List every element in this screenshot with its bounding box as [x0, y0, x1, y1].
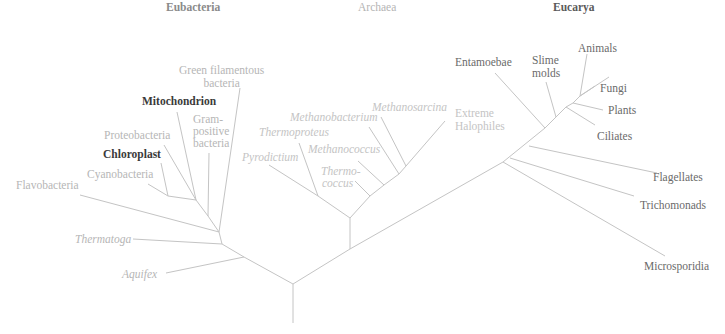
branch-eucarya-trunk4 [566, 103, 573, 107]
branch-slime-molds [546, 82, 556, 117]
branch-plants [573, 103, 603, 110]
branch-green-filamentous [219, 88, 240, 232]
domain-label-eucarya: Eucarya [553, 1, 595, 14]
branch-cyano-chloro-node [168, 196, 196, 200]
taxon-gram-positive-bacteria: Gram- positive bacteria [193, 113, 229, 149]
branch-eucarya-trunk5 [573, 96, 580, 103]
branch-bacteria-inner [219, 232, 222, 244]
domain-label-eubacteria: Eubacteria [166, 1, 220, 14]
branch-proteobacteria [164, 145, 196, 200]
branch-archaea-right3 [384, 174, 399, 185]
taxon-aquifex: Aquifex [122, 268, 157, 281]
taxon-label-line: Green filamentous [179, 64, 264, 77]
taxon-label-line: Slime [532, 54, 560, 67]
branch-eucarya-trunk3 [556, 107, 566, 117]
taxon-slime-molds: Slime molds [532, 54, 560, 80]
taxon-thermoproteus: Thermoproteus [259, 126, 329, 139]
taxon-microsporidia: Microsporidia [644, 260, 709, 273]
taxon-thermococcus: Thermo- coccus [321, 165, 361, 189]
taxon-ciliates: Ciliates [597, 130, 632, 143]
taxon-methanosarcina: Methanosarcina [372, 101, 447, 114]
branch-root-to-bacteria [244, 257, 293, 284]
taxon-label-line: bacteria [193, 137, 229, 149]
taxon-pyrodictium: Pyrodictium [242, 151, 298, 164]
branch-gram-positive [208, 153, 209, 216]
taxon-extreme-halophiles: Extreme Halophiles [455, 107, 505, 133]
branch-eucarya-trunk [503, 128, 545, 162]
taxon-green-filamentous-bacteria: Green filamentous bacteria [179, 64, 264, 90]
branch-extreme-halophiles [406, 121, 445, 166]
taxon-label-line: Halophiles [455, 120, 505, 133]
taxon-proteobacteria: Proteobacteria [104, 129, 170, 142]
taxon-chloroplast: Chloroplast [103, 148, 161, 161]
taxon-methanobacterium: Methanobacterium [290, 111, 378, 124]
taxon-label-line: Thermo- [321, 165, 361, 177]
taxon-label-line: bacteria [179, 77, 264, 90]
domain-label-archaea: Archaea [358, 1, 396, 14]
taxon-animals: Animals [578, 42, 617, 55]
taxon-entamoebae: Entamoebae [455, 56, 512, 69]
branch-bacteria-trunk [222, 244, 244, 257]
taxon-label-line: molds [532, 67, 560, 80]
taxon-label-line: Gram- [193, 113, 229, 125]
taxon-label-line: coccus [321, 177, 361, 189]
taxon-cyanobacteria: Cyanobacteria [87, 168, 153, 181]
branch-methanococcus [358, 161, 384, 185]
taxon-flagellates: Flagellates [653, 171, 703, 184]
taxon-flavobacteria: Flavobacteria [16, 179, 79, 192]
branch-bacteria-inner3 [196, 200, 208, 216]
branch-archaea-right2 [370, 185, 384, 196]
branch-thermatoga [133, 239, 222, 244]
taxon-trichomonads: Trichomonads [640, 199, 706, 212]
taxon-mitochondrion: Mitochondrion [142, 95, 216, 108]
branch-archaea-right4 [399, 166, 406, 174]
taxon-label-line: Extreme [455, 107, 505, 120]
branch-archaea-left [318, 196, 350, 218]
branch-flagellates [529, 146, 657, 173]
branch-root-to-archaea-eucarya [293, 249, 350, 284]
branch-pyrodictium [269, 165, 318, 196]
branch-flavobacteria [80, 195, 219, 232]
branch-chloroplast [161, 163, 168, 196]
taxon-thermatoga: Thermatoga [75, 233, 131, 246]
taxon-methanococcus: Methanococcus [308, 143, 380, 156]
branch-archaea-right [350, 196, 370, 218]
branch-cyanobacteria [148, 184, 168, 196]
branch-ciliates [566, 107, 595, 125]
taxon-fungi: Fungi [600, 82, 627, 95]
taxon-plants: Plants [608, 104, 636, 117]
branch-aquifex [166, 257, 244, 273]
taxon-label-line: positive [193, 125, 229, 137]
branch-methanosarcina [381, 117, 406, 166]
branch-animals [580, 54, 587, 96]
branch-eucarya-trunk2 [545, 117, 556, 128]
